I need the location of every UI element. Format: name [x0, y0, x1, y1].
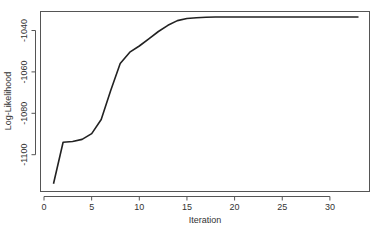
x-tick-label: 0	[41, 202, 46, 212]
y-tick-label: -1040	[19, 19, 29, 42]
y-tick-label: -1100	[19, 144, 29, 166]
x-tick-label: 5	[89, 202, 94, 212]
x-tick-label: 30	[325, 202, 335, 212]
y-tick-label: -1060	[19, 60, 29, 83]
x-tick-label: 20	[230, 202, 240, 212]
y-axis: -1100-1080-1060-1040	[19, 19, 36, 166]
y-tick-label: -1080	[19, 102, 29, 125]
x-axis: 051015202530	[41, 197, 334, 213]
chart-container: 051015202530 -1100-1080-1060-1040 Iterat…	[0, 0, 372, 230]
x-tick-label: 15	[182, 202, 192, 212]
line-chart: 051015202530 -1100-1080-1060-1040 Iterat…	[0, 0, 372, 230]
plot-frame	[41, 12, 370, 192]
x-axis-label: Iteration	[189, 215, 222, 225]
x-tick-label: 25	[277, 202, 287, 212]
x-tick-label: 10	[134, 202, 144, 212]
y-axis-label: Log-Likelihood	[3, 72, 13, 131]
log-likelihood-line	[54, 17, 359, 184]
